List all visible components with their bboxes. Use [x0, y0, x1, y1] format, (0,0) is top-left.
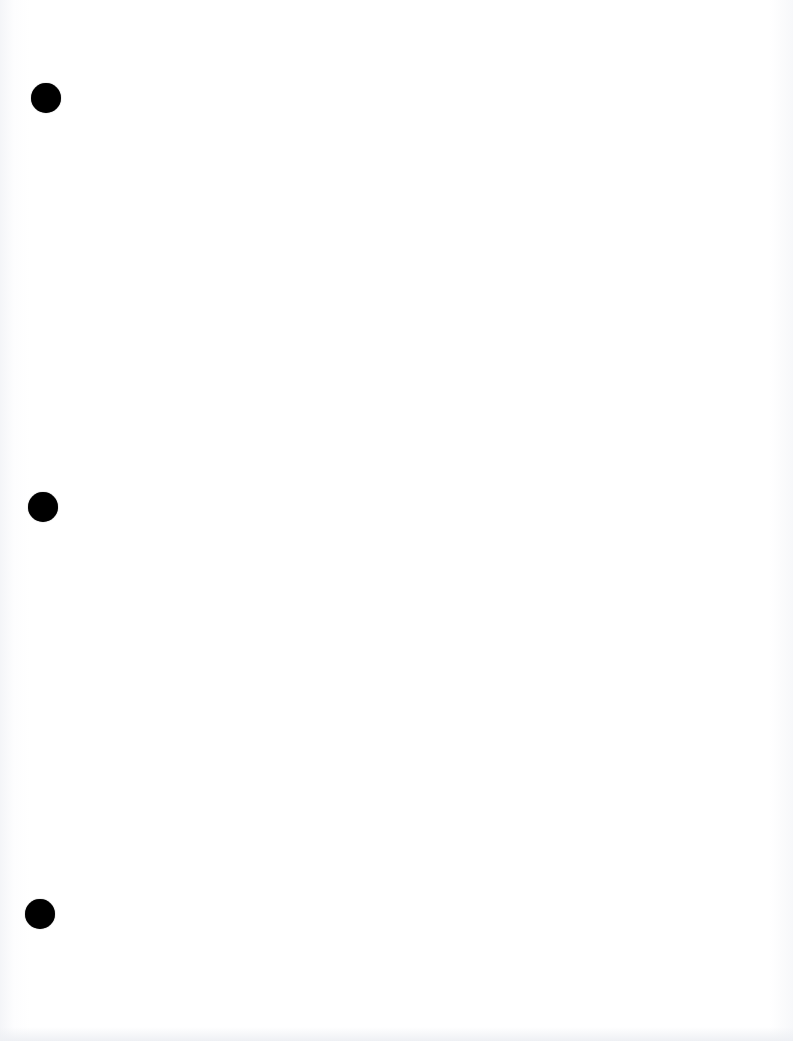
- punch-hole-top: [31, 83, 61, 113]
- punch-hole-middle: [28, 492, 58, 522]
- punch-hole-bottom: [25, 899, 55, 929]
- scan-edge-shadow: [0, 1027, 793, 1041]
- scanned-page: [0, 0, 793, 1041]
